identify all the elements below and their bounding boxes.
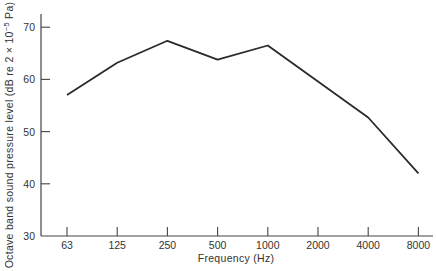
y-axis-label-sup: −5 (2, 22, 11, 31)
y-axis-label-main: Octave band sound pressure level (dB re … (3, 31, 15, 268)
y-tick-label: 70 (23, 21, 35, 33)
x-tick-label: 500 (209, 239, 227, 251)
x-tick-label: 2000 (306, 239, 330, 251)
y-tick-label: 30 (23, 230, 35, 242)
y-tick-label: 40 (23, 178, 35, 190)
y-tick-label: 60 (23, 73, 35, 85)
x-tick-label: 4000 (357, 239, 381, 251)
y-axis-label: Octave band sound pressure level (dB re … (2, 2, 15, 269)
x-axis-ticks: 631252505001000200040008000 (61, 227, 430, 251)
x-tick-label: 63 (61, 239, 73, 251)
y-axis-ticks: 3040506070 (23, 21, 50, 242)
x-tick-label: 1000 (256, 239, 280, 251)
data-line (67, 41, 418, 174)
x-tick-label: 125 (108, 239, 126, 251)
y-tick-label: 50 (23, 126, 35, 138)
x-axis-label: Frequency (Hz) (198, 252, 275, 264)
y-axis-label-tail: Pa) (3, 2, 15, 22)
x-tick-label: 250 (159, 239, 177, 251)
x-tick-label: 8000 (407, 239, 431, 251)
line-chart: 3040506070 631252505001000200040008000 F… (0, 0, 436, 271)
